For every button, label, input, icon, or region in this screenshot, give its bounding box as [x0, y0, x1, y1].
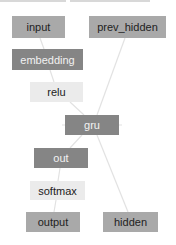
edge-out-softmax	[58, 168, 60, 181]
node-relu: relu	[30, 82, 83, 102]
node-hidden: hidden	[103, 212, 158, 232]
edge-prevhidden-gru	[97, 38, 125, 115]
node-input: input	[12, 16, 65, 38]
edge-gru-hidden	[97, 135, 128, 212]
edge-embedding-relu	[50, 70, 54, 82]
node-out: out	[34, 148, 88, 168]
node-prev-hidden: prev_hidden	[89, 16, 166, 38]
node-embedding: embedding	[12, 49, 83, 70]
node-gru: gru	[65, 115, 119, 135]
node-softmax: softmax	[30, 181, 85, 200]
edge-gru-out	[70, 135, 82, 148]
edge-input-embedding	[40, 38, 44, 49]
edge-softmax-output	[54, 200, 56, 212]
node-output: output	[26, 212, 80, 232]
edge-relu-gru	[70, 102, 84, 115]
